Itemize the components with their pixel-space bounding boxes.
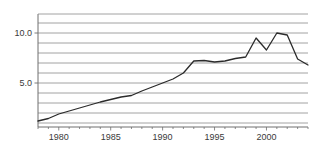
x-tick-label: 1995 [205, 132, 225, 142]
x-tick-label: 1985 [101, 132, 121, 142]
y-axis-ticks [35, 33, 39, 83]
x-tick-label: 1980 [49, 132, 69, 142]
data-line-1 [38, 33, 308, 121]
line-chart: 10.05.0 19801985199019952000 [0, 0, 318, 157]
data-line-group [38, 33, 308, 121]
x-tick-labels: 19801985199019952000 [49, 132, 277, 142]
x-tick-label: 1990 [153, 132, 173, 142]
plot-frame [38, 14, 308, 127]
y-tick-label: 5.0 [19, 78, 32, 88]
y-tick-labels: 10.05.0 [14, 28, 32, 88]
y-tick-label: 10.0 [14, 28, 32, 38]
x-tick-label: 2000 [256, 132, 276, 142]
chart-canvas: 10.05.0 19801985199019952000 [0, 0, 318, 157]
x-minor-ticks [38, 127, 308, 131]
